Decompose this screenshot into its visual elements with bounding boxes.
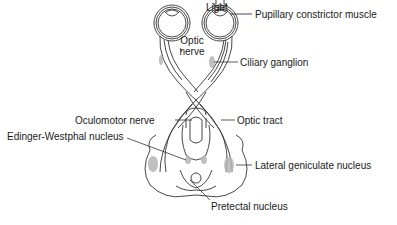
label-optic-nerve: Optic nerve [177, 35, 207, 57]
pupillary-reflex-diagram: Light Pupillary constrictor muscle Optic… [0, 0, 397, 225]
label-lateral-geniculate-nucleus: Lateral geniculate nucleus [255, 160, 371, 171]
label-edinger-westphal-nucleus: Edinger-Westphal nucleus [7, 131, 124, 142]
label-ciliary-ganglion: Ciliary ganglion [240, 57, 308, 68]
label-pretectal-nucleus: Pretectal nucleus [211, 201, 288, 212]
label-light: Light [206, 2, 228, 13]
label-optic-tract: Optic tract [237, 115, 283, 126]
ew-nucleus-right [201, 156, 207, 164]
anatomy-drawing [0, 0, 397, 225]
label-pupillary-constrictor-muscle: Pupillary constrictor muscle [255, 9, 377, 20]
left-lgn-shape [148, 156, 158, 172]
label-oculomotor-nerve: Oculomotor nerve [75, 115, 154, 126]
right-lgn-shape [224, 157, 234, 173]
